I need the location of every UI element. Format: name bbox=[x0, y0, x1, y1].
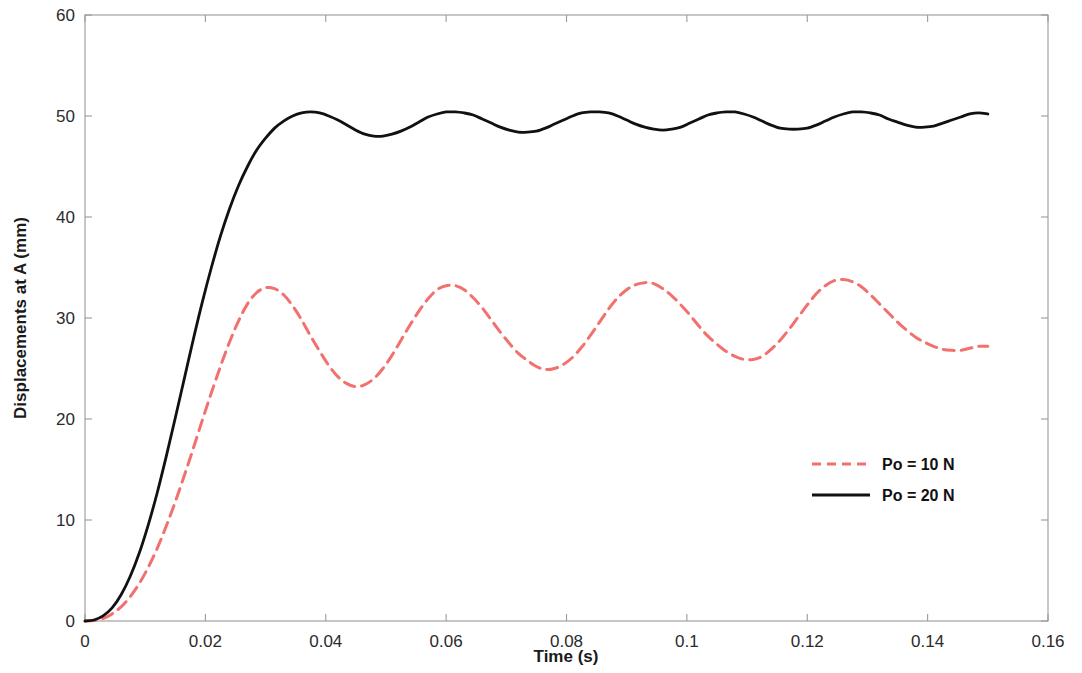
x-tick-label: 0.02 bbox=[189, 632, 222, 651]
y-tick-label: 20 bbox=[56, 410, 75, 429]
figure-container: 00.020.040.060.080.10.120.140.16 0102030… bbox=[0, 0, 1082, 673]
legend-label: Po = 20 N bbox=[882, 487, 954, 504]
y-axis-title: Displacements at A (mm) bbox=[11, 217, 30, 419]
x-tick-label: 0.16 bbox=[1031, 632, 1064, 651]
y-tick-label: 30 bbox=[56, 309, 75, 328]
x-tick-label: 0 bbox=[80, 632, 89, 651]
x-axis-title: Time (s) bbox=[534, 647, 599, 666]
y-tick-label: 50 bbox=[56, 107, 75, 126]
y-tick-label: 60 bbox=[56, 6, 75, 25]
plot-frame bbox=[85, 15, 1048, 621]
x-tick-label: 0.04 bbox=[309, 632, 342, 651]
x-tick-label: 0.12 bbox=[791, 632, 824, 651]
y-tick-label: 10 bbox=[56, 511, 75, 530]
y-axis-ticks bbox=[85, 15, 1048, 621]
chart-canvas: 00.020.040.060.080.10.120.140.16 0102030… bbox=[0, 0, 1082, 673]
series-line-po-10-n bbox=[85, 280, 988, 621]
y-tick-label: 0 bbox=[66, 612, 75, 631]
x-tick-label: 0.06 bbox=[430, 632, 463, 651]
y-tick-label: 40 bbox=[56, 208, 75, 227]
x-tick-label: 0.14 bbox=[911, 632, 944, 651]
data-series-group bbox=[85, 112, 988, 621]
x-tick-label: 0.1 bbox=[675, 632, 699, 651]
legend-label: Po = 10 N bbox=[882, 456, 954, 473]
chart-legend: Po = 10 NPo = 20 N bbox=[812, 456, 954, 504]
x-axis-ticks bbox=[85, 15, 1048, 621]
y-axis-tick-labels: 0102030405060 bbox=[56, 6, 75, 631]
